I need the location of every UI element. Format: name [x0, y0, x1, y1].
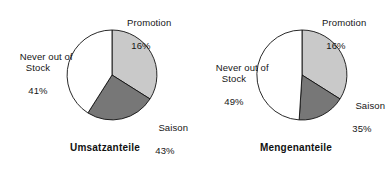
label-saison-percent: 35%: [336, 123, 388, 135]
label-promotion: Promotion 16%: [305, 5, 367, 74]
chart-panel-mengenanteile: Promotion 16% Never out of Stock 49% Sai…: [195, 0, 390, 177]
label-promotion-text: Promotion: [127, 17, 171, 28]
chart-title-mengenanteile: Mengenanteile: [231, 142, 361, 153]
label-never-out-of-stock-percent: 49%: [198, 96, 270, 108]
label-promotion-percent: 16%: [305, 40, 367, 52]
pie-chart-figure: Promotion 16% Never out of Stock 41% Sai…: [0, 0, 390, 177]
chart-panel-umsatzanteile: Promotion 16% Never out of Stock 41% Sai…: [0, 0, 195, 177]
chart-title-umsatzanteile: Umsatzanteile: [40, 142, 170, 153]
label-never-out-of-stock-percent: 41%: [2, 85, 74, 97]
label-never-out-of-stock-text: Never out of Stock: [20, 51, 73, 74]
label-saison-text: Saison: [158, 122, 188, 133]
label-promotion: Promotion 16%: [110, 5, 172, 74]
label-never-out-of-stock-text: Never out of Stock: [216, 62, 269, 85]
label-promotion-text: Promotion: [322, 17, 366, 28]
label-never-out-of-stock: Never out of Stock 41%: [2, 39, 74, 120]
label-saison-text: Saison: [355, 100, 385, 111]
label-promotion-percent: 16%: [110, 40, 172, 52]
label-never-out-of-stock: Never out of Stock 49%: [198, 50, 270, 131]
